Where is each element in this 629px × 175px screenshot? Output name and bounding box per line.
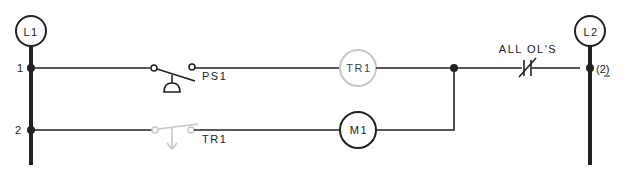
l2-label: L2 xyxy=(583,26,598,38)
right-rail: L2 xyxy=(575,16,605,165)
left-rail: L1 xyxy=(16,16,46,165)
wire-reference: (2) xyxy=(596,63,609,75)
rung-1: PS1 TR1 ALL OL'S (2) xyxy=(27,43,610,92)
pressure-dome-icon xyxy=(164,83,180,92)
l1-label: L1 xyxy=(23,26,38,38)
rung-number-2: 2 xyxy=(15,124,21,136)
coil-m1: M1 xyxy=(340,112,376,148)
tr1-coil-label: TR1 xyxy=(346,62,371,74)
overload-contacts: ALL OL'S xyxy=(499,43,557,77)
ladder-diagram: L1 L2 1 2 PS1 TR1 xyxy=(0,0,629,175)
ol-label: ALL OL'S xyxy=(499,43,557,55)
rung-2: TR1 M1 xyxy=(27,68,454,149)
tr1-contact-label: TR1 xyxy=(202,133,227,145)
rung-number-1: 1 xyxy=(17,62,23,74)
ps1-label: PS1 xyxy=(202,70,227,82)
timed-contact-tr1: TR1 xyxy=(152,124,227,149)
coil-tr1: TR1 xyxy=(340,50,376,86)
m1-coil-label: M1 xyxy=(350,124,368,136)
junction-dot xyxy=(586,64,594,72)
